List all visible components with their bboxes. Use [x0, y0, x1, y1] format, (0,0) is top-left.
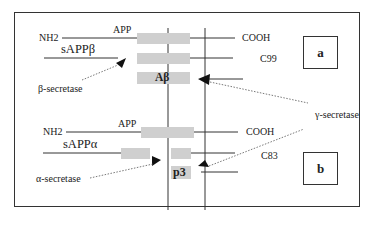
nh2-label-b: NH2	[43, 127, 62, 137]
app-bar-b	[141, 127, 194, 138]
panel-b-badge: b	[303, 152, 338, 185]
c83-bar	[171, 148, 191, 159]
app-bar-a	[137, 33, 190, 44]
alpha-secretase-label: α-secretase	[36, 174, 81, 184]
c99-bar	[137, 53, 190, 64]
p3-label: p3	[173, 166, 186, 178]
nh2-label-a: NH2	[39, 33, 58, 43]
cooh-label-b: COOH	[246, 127, 274, 137]
c83-label: C83	[261, 151, 278, 161]
app-label-a: APP	[113, 25, 131, 35]
sappa-label: sAPPα	[63, 138, 97, 151]
abeta-label: Aβ	[155, 72, 169, 84]
gamma-secretase-label: γ-secretase	[315, 110, 359, 120]
c99-label: C99	[260, 54, 277, 64]
beta-secretase-label: β-secretase	[38, 84, 83, 94]
app-label-b: APP	[118, 119, 136, 129]
cooh-label-a: COOH	[242, 33, 270, 43]
panel-a-badge: a	[303, 36, 338, 69]
sappb-label: sAPPβ	[61, 43, 95, 56]
sappa-bar	[121, 148, 150, 159]
